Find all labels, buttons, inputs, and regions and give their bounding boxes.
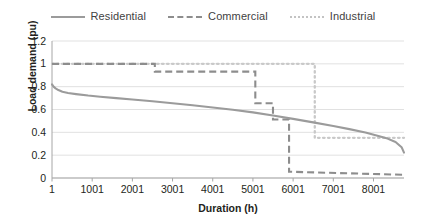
axis-lines — [52, 41, 404, 182]
series-line-commercial — [52, 64, 404, 175]
x-tick-label: 2001 — [121, 183, 145, 195]
x-tick-label: 1001 — [81, 183, 105, 195]
y-tick-label: 1.2 — [31, 35, 46, 47]
y-axis-tick-labels: 00.20.40.60.811.2 — [31, 35, 46, 184]
x-tick-label: 3001 — [161, 183, 185, 195]
y-tick-label: 0.4 — [31, 126, 46, 138]
y-tick-label: 0.8 — [31, 80, 46, 92]
plot-area: 00.20.40.60.811.2 1100120013001400150016… — [0, 0, 426, 224]
x-tick-label: 4001 — [201, 183, 225, 195]
x-axis-tick-labels: 110012001300140015001600170018001 — [49, 183, 385, 195]
x-tick-label: 6001 — [281, 183, 305, 195]
series-line-industrial — [52, 64, 404, 138]
x-tick-label: 1 — [49, 183, 55, 195]
x-tick-label: 5001 — [241, 183, 265, 195]
y-tick-label: 1 — [40, 57, 46, 69]
series-line-residential — [52, 84, 404, 152]
chart-figure: Residential Commercial Industrial Load d… — [0, 0, 426, 224]
y-tick-label: 0.6 — [31, 103, 46, 115]
x-tick-label: 7001 — [322, 183, 346, 195]
y-tick-label: 0.2 — [31, 149, 46, 161]
y-tick-label: 0 — [40, 172, 46, 184]
x-tick-label: 8001 — [362, 183, 386, 195]
